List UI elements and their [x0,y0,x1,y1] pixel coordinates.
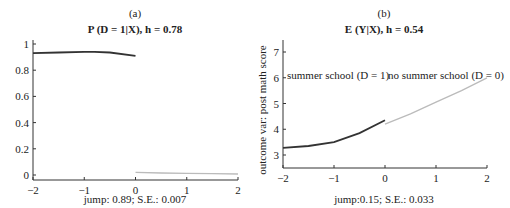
y-tick-label: 0.8 [15,64,29,76]
figure: (a) P (D = 1|X), h = 0.78 −2−101200.20.4… [0,0,510,208]
panel-a: (a) P (D = 1|X), h = 0.78 −2−101200.20.4… [15,7,241,205]
panel-a-plot-area [33,52,238,174]
series-line-control [385,78,487,124]
annotation-no-summer-school: no summer school (D = 0) [388,69,504,82]
x-tick-label: 2 [484,172,490,184]
x-tick-label: −1 [328,172,340,184]
y-tick-label: 5 [274,98,280,110]
y-tick-label: 4 [274,123,280,135]
series-line-control [136,172,239,174]
panel-b: (b) E (Y|X), h = 0.54 outcome var: post … [256,7,504,205]
x-tick-label: −2 [27,184,39,196]
panel-b-axes: −2−101234567 [274,40,490,184]
panel-a-label: (a) [129,7,142,20]
panel-a-title: P (D = 1|X), h = 0.78 [88,23,183,36]
x-tick-label: 1 [433,172,439,184]
panel-b-footnote: jump:0.15; S.E.: 0.033 [333,193,434,205]
panel-b-label: (b) [378,7,391,20]
y-tick-label: 0.6 [15,90,29,102]
y-tick-label: 6 [274,72,280,84]
annotation-summer-school: summer school (D = 1) [287,69,389,82]
panel-b-title: E (Y|X), h = 0.54 [345,23,424,36]
series-line-treated [33,52,136,56]
y-tick-label: 3 [274,149,280,161]
x-tick-label: 0 [382,172,388,184]
y-tick-label: 1 [24,38,30,50]
series-line-treated [283,120,385,148]
x-tick-label: −2 [277,172,289,184]
panel-b-ylabel: outcome var: post math score [256,45,268,175]
panel-b-plot-area [283,78,487,148]
y-tick-label: 0 [24,169,30,181]
y-tick-label: 7 [274,46,280,58]
y-tick-label: 0.4 [15,117,29,129]
panel-a-axes: −2−101200.20.40.60.81 [15,38,241,196]
x-tick-label: 2 [235,184,241,196]
panel-a-footnote: jump: 0.89; S.E.: 0.007 [83,193,187,205]
y-tick-label: 0.2 [15,143,29,155]
